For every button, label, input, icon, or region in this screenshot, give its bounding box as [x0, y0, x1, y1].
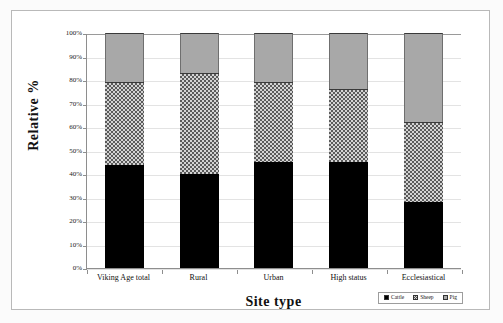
y-tickmark: [83, 152, 87, 153]
bar-segment-pig[interactable]: [254, 33, 293, 82]
bar-segment-cattle[interactable]: [105, 165, 144, 268]
bar-segment-pig[interactable]: [329, 33, 368, 89]
legend-swatch-sheep-icon: [413, 295, 418, 300]
bar-slot: [162, 34, 237, 268]
bar-segment-cattle[interactable]: [180, 174, 219, 268]
y-tick-label: 30%: [56, 195, 82, 202]
x-category-label: Viking Age total: [86, 273, 161, 282]
y-tickmark: [83, 105, 87, 106]
bar-segment-cattle[interactable]: [329, 162, 368, 268]
legend-swatch-pig-icon: [443, 295, 448, 300]
chart-legend: CattleSheepPig: [378, 292, 463, 304]
y-tickmark: [83, 246, 87, 247]
y-axis-title: Relative %: [26, 55, 42, 175]
bar-group: [87, 34, 461, 268]
legend-label: Pig: [450, 295, 457, 301]
bar-segment-sheep[interactable]: [180, 73, 219, 174]
x-category-label: Ecclesiastical: [386, 273, 461, 282]
y-tick-label: 90%: [56, 54, 82, 61]
bar-segment-cattle[interactable]: [254, 162, 293, 268]
legend-item-pig[interactable]: Pig: [443, 295, 457, 301]
bar-segment-sheep[interactable]: [329, 89, 368, 162]
legend-label: Cattle: [391, 295, 404, 301]
stacked-bar[interactable]: [254, 34, 293, 268]
bar-slot: [87, 34, 162, 268]
y-tick-label: 10%: [56, 242, 82, 249]
y-tickmark: [83, 81, 87, 82]
stacked-bar[interactable]: [180, 34, 219, 268]
stacked-bar[interactable]: [329, 34, 368, 268]
y-tickmark: [83, 34, 87, 35]
gridline: [87, 269, 461, 270]
y-tickmark: [83, 199, 87, 200]
stacked-bar[interactable]: [404, 34, 443, 268]
y-tickmark: [83, 58, 87, 59]
bar-segment-cattle[interactable]: [404, 202, 443, 268]
bar-segment-pig[interactable]: [105, 33, 144, 82]
y-tickmark: [83, 175, 87, 176]
y-tick-label: 80%: [56, 77, 82, 84]
bar-segment-sheep[interactable]: [254, 82, 293, 162]
plot-area: 0%10%20%30%40%50%60%70%80%90%100%: [86, 34, 461, 269]
bar-segment-sheep[interactable]: [404, 122, 443, 202]
figure-frame: Relative % 0%10%20%30%40%50%60%70%80%90%…: [11, 10, 490, 310]
legend-label: Sheep: [420, 295, 433, 301]
legend-swatch-cattle-icon: [384, 295, 389, 300]
x-axis-ticklabels: Viking Age totalRuralUrbanHigh statusEcc…: [86, 273, 461, 282]
x-category-label: High status: [311, 273, 386, 282]
y-tickmark: [83, 269, 87, 270]
stacked-bar[interactable]: [105, 34, 144, 268]
figure-container: Relative % 0%10%20%30%40%50%60%70%80%90%…: [0, 0, 503, 323]
bar-slot: [237, 34, 312, 268]
y-tick-label: 0%: [56, 265, 82, 272]
x-category-label: Rural: [161, 273, 236, 282]
y-tickmark: [83, 222, 87, 223]
y-tickmark: [83, 128, 87, 129]
bar-slot: [386, 34, 461, 268]
legend-item-sheep[interactable]: Sheep: [413, 295, 433, 301]
bar-segment-sheep[interactable]: [105, 82, 144, 164]
legend-item-cattle[interactable]: Cattle: [384, 295, 404, 301]
bar-segment-pig[interactable]: [180, 33, 219, 73]
y-tick-label: 100%: [56, 30, 82, 37]
y-tick-label: 70%: [56, 101, 82, 108]
x-tickmark: [462, 270, 463, 274]
y-tick-label: 40%: [56, 171, 82, 178]
bar-slot: [311, 34, 386, 268]
x-category-label: Urban: [236, 273, 311, 282]
y-tick-label: 60%: [56, 124, 82, 131]
y-tick-label: 20%: [56, 218, 82, 225]
bar-segment-pig[interactable]: [404, 33, 443, 122]
y-tick-label: 50%: [56, 148, 82, 155]
